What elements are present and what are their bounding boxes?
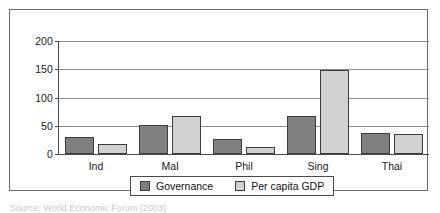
y-axis-tick-label: 100 [35,92,53,104]
source-caption: Source: World Economic Forum (2003) [10,203,430,213]
x-axis-label-ind: Ind [89,160,104,172]
bar-sing-per-capita-gdp [320,70,349,154]
bar-phil-governance [213,139,242,154]
bar-ind-governance [65,137,94,155]
bar-sing-governance [287,116,316,154]
gridline [59,41,429,42]
legend-entry-governance: Governance [140,180,213,192]
y-axis-tick-mark [55,69,59,70]
bar-mal-per-capita-gdp [172,116,201,154]
y-axis-tick-label: 50 [41,120,53,132]
y-axis-tick-mark [55,98,59,99]
x-axis-label-phil: Phil [235,160,253,172]
chart-figure: 050100150200IndMalPhilSingThai Governanc… [0,0,440,213]
gridline [59,98,429,99]
y-axis-tick-label: 200 [35,35,53,47]
chart-frame: 050100150200IndMalPhilSingThai Governanc… [9,9,428,191]
legend-entry-per-capita-gdp: Per capita GDP [235,180,324,192]
legend-label-per-capita-gdp: Per capita GDP [251,180,324,192]
bar-mal-governance [139,125,168,154]
gridline [59,126,429,127]
legend-swatch-per-capita-gdp [235,181,245,191]
bar-phil-per-capita-gdp [246,147,275,154]
x-axis-label-mal: Mal [162,160,179,172]
y-axis-tick-mark [55,154,59,155]
x-axis-label-thai: Thai [382,160,402,172]
y-axis-tick-label: 0 [47,148,53,160]
x-axis-label-sing: Sing [307,160,328,172]
y-axis-tick-mark [55,41,59,42]
chart-legend: Governance Per capita GDP [130,176,334,196]
legend-swatch-governance [140,181,150,191]
y-axis-tick-mark [55,126,59,127]
bar-thai-governance [361,133,390,154]
y-axis-tick-label: 150 [35,63,53,75]
plot-area: 050100150200IndMalPhilSingThai [58,41,429,155]
gridline [59,69,429,70]
legend-label-governance: Governance [156,180,213,192]
bar-thai-per-capita-gdp [394,134,423,154]
bar-ind-per-capita-gdp [98,144,127,154]
